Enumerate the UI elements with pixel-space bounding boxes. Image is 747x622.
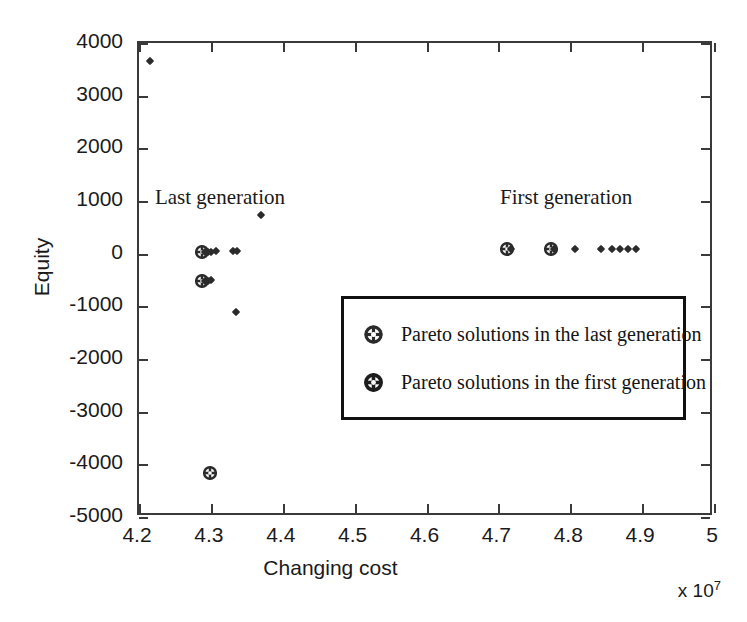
y-tick-label: -5000 (0, 503, 123, 527)
x-tick-mark (211, 43, 213, 52)
x-tick-mark (714, 43, 716, 52)
data-point-circle-cross (202, 465, 217, 480)
x-tick-mark (498, 43, 500, 52)
x-tick-label: 4.3 (194, 523, 223, 547)
y-tick-mark-right (701, 464, 710, 466)
y-tick-mark (139, 412, 148, 414)
y-tick-label: 4000 (0, 29, 123, 53)
plot-annotation: First generation (500, 185, 632, 210)
x-tick-mark-bottom (642, 504, 644, 513)
figure-canvas: Equity 40003000200010000-1000-2000-3000-… (0, 0, 747, 622)
x-tick-mark-bottom (498, 504, 500, 513)
x-tick-mark-bottom (355, 504, 357, 513)
legend: Pareto solutions in the last generation … (341, 296, 686, 420)
x-tick-label: 4.4 (266, 523, 295, 547)
x-tick-mark (427, 43, 429, 52)
circle-cross-icon (364, 325, 383, 344)
x-tick-mark (283, 43, 285, 52)
y-tick-label: 2000 (0, 134, 123, 158)
x-tick-label: 4.6 (410, 523, 439, 547)
x-tick-mark (570, 43, 572, 52)
y-tick-mark (139, 148, 148, 150)
x-tick-label: 4.7 (482, 523, 511, 547)
legend-entry-last-generation: Pareto solutions in the last generation (364, 321, 702, 347)
x-axis-title: Changing cost (0, 556, 747, 580)
x-tick-label: 5 (706, 523, 718, 547)
x-tick-label: 4.8 (554, 523, 583, 547)
x-tick-mark-bottom (570, 504, 572, 513)
y-tick-mark (139, 201, 148, 203)
y-tick-mark (139, 464, 148, 466)
x-tick-mark (355, 43, 357, 52)
y-tick-mark-right (701, 43, 710, 45)
y-tick-mark-right (701, 359, 710, 361)
y-tick-label: -1000 (0, 292, 123, 316)
legend-label: Pareto solutions in the last generation (401, 323, 702, 346)
exponent-prefix: x 10 (678, 580, 714, 601)
circle-cross-icon (364, 373, 383, 392)
y-tick-label: -3000 (0, 398, 123, 422)
x-tick-mark-bottom (714, 504, 716, 513)
y-tick-label: 0 (0, 240, 123, 264)
x-tick-mark-bottom (283, 504, 285, 513)
x-tick-mark (139, 43, 141, 52)
x-axis-title-text: Changing cost (263, 556, 397, 579)
plot-area (137, 41, 712, 515)
x-tick-mark (642, 43, 644, 52)
y-tick-mark (139, 96, 148, 98)
x-tick-mark-bottom (139, 504, 141, 513)
y-tick-mark-right (701, 306, 710, 308)
y-tick-label: -4000 (0, 450, 123, 474)
legend-label: Pareto solutions in the first generation (401, 371, 706, 394)
y-tick-mark (139, 306, 148, 308)
y-tick-mark-right (701, 254, 710, 256)
y-tick-label: -2000 (0, 345, 123, 369)
y-tick-mark-right (701, 148, 710, 150)
x-tick-label: 4.2 (122, 523, 151, 547)
y-tick-label: 1000 (0, 187, 123, 211)
exponent-power: 7 (714, 578, 721, 593)
x-tick-label: 4.5 (338, 523, 367, 547)
axis-exponent-multiplier: x 107 (678, 578, 721, 602)
y-tick-mark (139, 254, 148, 256)
y-tick-mark-right (701, 201, 710, 203)
y-tick-mark-right (701, 412, 710, 414)
legend-entry-first-generation: Pareto solutions in the first generation (364, 369, 706, 395)
x-tick-mark-bottom (211, 504, 213, 513)
y-tick-mark (139, 359, 148, 361)
y-tick-mark-right (701, 517, 710, 519)
y-tick-mark-right (701, 96, 710, 98)
x-tick-mark-bottom (427, 504, 429, 513)
y-tick-mark (139, 517, 148, 519)
x-tick-label: 4.9 (626, 523, 655, 547)
plot-annotation: Last generation (155, 185, 285, 210)
y-tick-label: 3000 (0, 82, 123, 106)
